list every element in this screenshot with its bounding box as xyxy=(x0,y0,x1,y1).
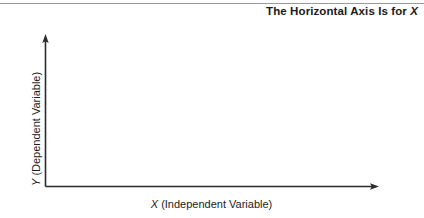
y-axis-label-text: (Dependent Variable) xyxy=(30,72,42,179)
x-axis-label-text: (Independent Variable) xyxy=(158,198,272,210)
x-axis-label: X (Independent Variable) xyxy=(45,198,378,210)
figure-container: The Horizontal Axis Is for X Y (Dependen… xyxy=(0,0,424,218)
y-axis-label: Y (Dependent Variable) xyxy=(30,36,42,186)
axes-graphic xyxy=(0,0,424,218)
x-axis-label-variable: X xyxy=(151,198,158,210)
y-axis-label-variable: Y xyxy=(30,179,42,186)
